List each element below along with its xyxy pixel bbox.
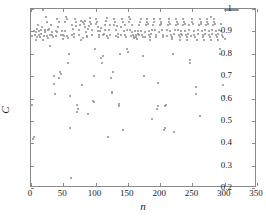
data-point bbox=[140, 30, 142, 32]
data-point bbox=[93, 75, 95, 77]
data-point bbox=[197, 29, 199, 31]
data-point bbox=[46, 21, 48, 23]
data-point bbox=[164, 127, 166, 129]
data-point bbox=[45, 16, 47, 18]
data-point bbox=[120, 26, 122, 28]
data-point bbox=[108, 29, 110, 31]
data-point bbox=[56, 18, 58, 20]
data-point bbox=[237, 9, 239, 11]
data-point bbox=[177, 23, 179, 25]
data-point bbox=[87, 113, 89, 115]
data-point bbox=[146, 18, 148, 20]
data-point bbox=[77, 108, 79, 110]
data-point bbox=[162, 36, 164, 38]
data-point bbox=[83, 23, 85, 25]
data-point bbox=[161, 29, 163, 31]
data-point bbox=[199, 115, 201, 117]
data-point bbox=[99, 30, 101, 32]
data-point bbox=[81, 84, 83, 86]
data-point bbox=[52, 36, 54, 38]
data-point bbox=[76, 111, 78, 113]
y-tick-label: 0.5 bbox=[202, 115, 232, 124]
data-point bbox=[56, 31, 58, 33]
data-point bbox=[156, 108, 158, 110]
data-point bbox=[48, 28, 50, 30]
data-point bbox=[166, 29, 168, 31]
data-point bbox=[148, 30, 150, 32]
data-point bbox=[103, 33, 105, 35]
data-point bbox=[79, 24, 81, 26]
data-point bbox=[179, 36, 181, 38]
data-point bbox=[67, 62, 69, 64]
data-point bbox=[216, 36, 218, 38]
data-point bbox=[173, 131, 175, 133]
y-tick bbox=[31, 31, 34, 32]
data-point bbox=[35, 39, 37, 41]
data-point bbox=[160, 23, 162, 25]
data-point bbox=[93, 101, 95, 103]
y-tick-right bbox=[252, 31, 255, 32]
data-point bbox=[102, 55, 104, 57]
x-tick-label: 0 bbox=[28, 189, 33, 198]
x-tick bbox=[160, 183, 161, 186]
data-point bbox=[187, 33, 189, 35]
x-tick bbox=[96, 183, 97, 186]
data-point bbox=[68, 53, 70, 55]
scatter-chart-figure: C n 0.20.30.40.50.60.70.80.91 0501001502… bbox=[0, 0, 266, 219]
data-point bbox=[122, 21, 124, 23]
data-point bbox=[64, 30, 66, 32]
x-tick-label: 150 bbox=[120, 189, 134, 198]
data-point bbox=[177, 29, 179, 31]
data-point bbox=[42, 9, 44, 11]
data-point bbox=[113, 24, 115, 26]
data-point bbox=[173, 33, 175, 35]
y-axis-title: C bbox=[0, 106, 11, 113]
data-point bbox=[197, 33, 199, 35]
data-point bbox=[165, 104, 167, 106]
data-point bbox=[78, 34, 80, 36]
data-point bbox=[73, 33, 75, 35]
y-tick-label: 0.8 bbox=[202, 48, 232, 57]
data-point bbox=[44, 31, 46, 33]
data-point bbox=[127, 51, 129, 53]
data-point bbox=[140, 18, 142, 20]
data-point bbox=[222, 84, 224, 86]
data-point bbox=[111, 92, 113, 94]
data-point bbox=[144, 31, 146, 33]
data-point bbox=[98, 36, 100, 38]
data-point bbox=[184, 30, 186, 32]
x-tick-top bbox=[128, 9, 129, 12]
x-tick-label: 300 bbox=[217, 189, 231, 198]
data-point bbox=[69, 95, 71, 97]
data-point bbox=[104, 24, 106, 26]
data-point bbox=[120, 34, 122, 36]
data-point bbox=[190, 35, 192, 37]
data-point bbox=[150, 33, 152, 35]
data-point bbox=[33, 136, 35, 138]
data-point bbox=[163, 129, 165, 131]
x-tick-top bbox=[63, 9, 64, 12]
data-point bbox=[122, 129, 124, 131]
data-point bbox=[63, 35, 65, 37]
data-point bbox=[57, 26, 59, 28]
data-point bbox=[217, 39, 219, 41]
data-point bbox=[203, 39, 205, 41]
data-point bbox=[31, 35, 33, 37]
data-point bbox=[186, 39, 188, 41]
data-point bbox=[43, 35, 45, 37]
data-point bbox=[91, 34, 93, 36]
data-point bbox=[196, 39, 198, 41]
data-point bbox=[147, 23, 149, 25]
data-point bbox=[195, 93, 197, 95]
y-tick-label: 0.9 bbox=[202, 26, 232, 35]
data-point bbox=[37, 24, 39, 26]
y-tick-label: 0.3 bbox=[202, 160, 232, 169]
data-point bbox=[195, 86, 197, 88]
data-point bbox=[95, 18, 97, 20]
data-point bbox=[169, 30, 171, 32]
y-tick-right bbox=[252, 54, 255, 55]
data-point bbox=[50, 24, 52, 26]
data-point bbox=[159, 18, 161, 20]
y-tick-right bbox=[252, 121, 255, 122]
data-point bbox=[100, 57, 102, 59]
